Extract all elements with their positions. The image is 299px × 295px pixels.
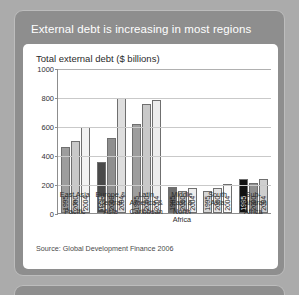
y-tick-label-0: 0 (50, 210, 54, 219)
y-tick-label-600: 600 (41, 123, 54, 132)
category-label-latin-america-caribbean: LatinAmerica &Caribbean (128, 191, 164, 225)
gridline-800 (58, 98, 271, 99)
category-label-sub-saharan-africa: Sub-SaharanAfrica (235, 191, 271, 225)
panel-title: External debt is increasing in most regi… (31, 23, 251, 35)
category-label-middle-east-north-africa: Middle East &NorthAfrica (164, 191, 200, 225)
category-label-europe-central-asia: Europe &CentralAsia (93, 191, 129, 225)
gridline-400 (58, 156, 271, 157)
y-tick-mark-400 (55, 156, 58, 157)
chart-card: Total external debt ($ billions) 0200400… (23, 44, 278, 269)
y-tick-label-400: 400 (41, 152, 54, 161)
y-tick-mark-600 (55, 127, 58, 128)
chart-panel: External debt is increasing in most regi… (14, 10, 285, 276)
y-tick-mark-200 (55, 185, 58, 186)
screenshot-root: External debt is increasing in most regi… (0, 0, 299, 295)
x-axis-categories: East Asia &PacificEurope &CentralAsiaLat… (57, 191, 271, 225)
y-axis-labels: 02004006008001000 (23, 69, 57, 214)
category-label-south-asia: SouthAsia (200, 191, 236, 225)
source-note: Source: Global Development Finance 2006 (36, 244, 173, 253)
y-tick-mark-1000 (55, 69, 58, 70)
category-label-east-asia-pacific: East Asia &Pacific (57, 191, 93, 225)
gridline-200 (58, 185, 271, 186)
y-tick-label-1000: 1000 (37, 65, 54, 74)
y-tick-label-800: 800 (41, 94, 54, 103)
gridline-1000 (58, 69, 271, 70)
y-tick-mark-800 (55, 98, 58, 99)
chart-title: Total external debt ($ billions) (36, 53, 160, 64)
y-tick-label-200: 200 (41, 181, 54, 190)
gridline-600 (58, 127, 271, 128)
next-panel (14, 285, 285, 295)
